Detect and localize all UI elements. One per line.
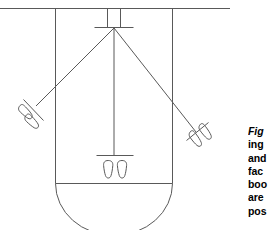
center-footprint-right-sole	[117, 161, 126, 179]
left-footprints-group	[19, 100, 44, 129]
room-rounded-bottom	[56, 184, 173, 231]
caption-line: pos	[248, 205, 268, 218]
page-root: Fig ing and fac boo are pos	[0, 0, 268, 230]
left-sight-line	[36, 28, 114, 106]
figure-caption: Fig ing and fac boo are pos	[248, 125, 268, 230]
right-sight-line	[114, 28, 196, 132]
caption-lead: Fig	[248, 125, 268, 138]
figure-diagram-panel	[0, 0, 230, 230]
caption-line: fac	[248, 165, 268, 178]
center-footprints-group	[97, 156, 134, 179]
caption-line: are	[248, 191, 268, 204]
right-footprints-group	[187, 123, 212, 147]
caption-line: boo	[248, 178, 268, 191]
caption-line: ing	[248, 138, 268, 151]
center-footprint-left-sole	[104, 161, 113, 179]
right-footprint-inner-sole	[189, 131, 201, 147]
left-footprint-lower-sole	[25, 114, 39, 128]
caption-line: and	[248, 152, 268, 165]
right-footprint-outer-sole	[199, 124, 211, 140]
figure-diagram-svg	[0, 0, 230, 230]
top-footprints-group	[95, 9, 134, 28]
